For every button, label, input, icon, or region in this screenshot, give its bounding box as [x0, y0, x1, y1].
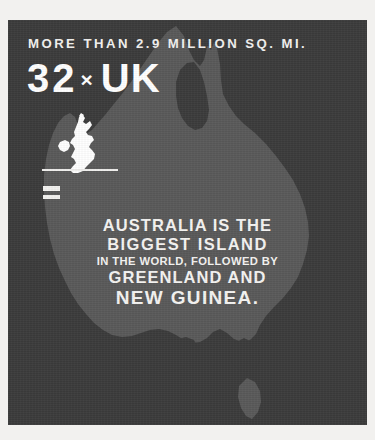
infographic-root: MORE THAN 2.9 MILLION SQ. MI. 32 × UK AU… [0, 0, 375, 440]
infographic-panel: MORE THAN 2.9 MILLION SQ. MI. 32 × UK AU… [8, 20, 367, 425]
statement-line-5: NEW GUINEA. [8, 287, 367, 309]
statement-line-4: GREENLAND AND [8, 268, 367, 287]
statement-block: AUSTRALIA IS THE BIGGEST ISLAND IN THE W… [8, 216, 367, 309]
equals-icon [43, 186, 60, 200]
divider [42, 169, 118, 171]
unit-label: UK [101, 58, 161, 98]
multiply-icon: × [78, 69, 101, 90]
page-title: MORE THAN 2.9 MILLION SQ. MI. [28, 36, 307, 51]
statement-line-3: IN THE WORLD, FOLLOWED BY [8, 254, 367, 268]
multiplier-value: 32 [27, 58, 78, 98]
statement-line-2: BIGGEST ISLAND [8, 235, 367, 254]
statement-line-1: AUSTRALIA IS THE [8, 216, 367, 235]
comparison-stat: 32 × UK [27, 58, 161, 98]
